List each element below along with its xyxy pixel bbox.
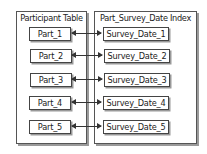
survey-date-5-box: Survey_Date_5 [103, 120, 169, 134]
survey-date-3-box: Survey_Date_3 [104, 73, 170, 87]
link-arrow-2 [72, 55, 102, 56]
link-arrow-3 [72, 79, 102, 80]
arrow-head-right-icon [98, 76, 103, 82]
part-5-box: Part_5 [29, 120, 71, 134]
survey-date-index-title: Part_Survey_Date Index [95, 13, 196, 23]
part-1-box: Part_1 [29, 27, 71, 41]
arrow-head-left-icon [71, 30, 76, 36]
survey-date-1-box: Survey_Date_1 [103, 27, 169, 41]
survey-date-4-box: Survey_Date_4 [103, 96, 169, 110]
arrow-head-right-icon [97, 30, 102, 36]
survey-date-2-box: Survey_Date_2 [104, 49, 170, 63]
part-4-box: Part_4 [29, 96, 71, 110]
part-2-box: Part_2 [30, 49, 72, 63]
arrow-head-left-icon [71, 76, 76, 82]
arrow-head-right-icon [97, 99, 102, 105]
participant-table-title: Participant Table [17, 13, 86, 23]
arrow-head-right-icon [98, 52, 103, 58]
arrow-head-left-icon [71, 123, 76, 129]
arrow-head-left-icon [71, 52, 76, 58]
link-arrow-1 [72, 33, 101, 34]
link-arrow-4 [72, 102, 101, 103]
part-3-box: Part_3 [30, 73, 72, 87]
link-arrow-5 [72, 126, 101, 127]
arrow-head-left-icon [71, 99, 76, 105]
arrow-head-right-icon [97, 123, 102, 129]
